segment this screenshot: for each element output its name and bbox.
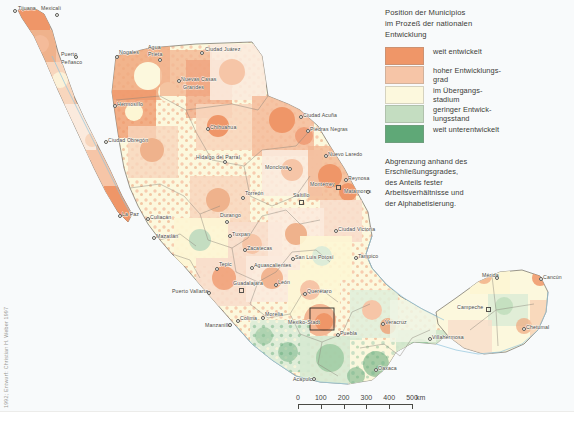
legend-item-label: geringer Entwick-lungsstand (433, 105, 491, 123)
legend-item-label: hoher Entwicklungs-grad (433, 66, 501, 84)
legend-color-swatch (385, 86, 424, 104)
source-credit: 1992; Entwurf: Christian H. Weber 1997 (3, 307, 9, 408)
legend-note-line: Abgrenzung anhand des (385, 157, 570, 168)
city-label: Villahermosa (432, 335, 464, 340)
city-label: Mazatlán (156, 234, 178, 239)
city-label: Mexicali (41, 6, 61, 11)
legend-note-line: Arbeitsverhältnisse und (385, 188, 570, 199)
city-label: San Luis Potosí (295, 255, 334, 260)
city-label: Zacatecas (247, 246, 272, 251)
city-label: Tuxpan (232, 232, 250, 237)
city-label: Puebla (340, 331, 357, 336)
city-label: Mexiko-Stadt (288, 320, 320, 325)
city-label: Oaxaca (378, 366, 397, 371)
scale-tick-label: 0 (296, 394, 300, 401)
bottom-strip (0, 412, 574, 429)
city-label: Culiacán (150, 215, 171, 220)
legend-title: Position der Municipiosim Prozeß der nat… (385, 8, 570, 40)
city-label: Chihuahua (210, 125, 236, 130)
legend-note-line: der Alphabetisierung. (385, 199, 570, 210)
city-label: Monterrey (310, 182, 335, 187)
scale-unit-label: km (416, 394, 425, 401)
city-label: Nuevo Laredo (328, 152, 362, 157)
legend-title-line: im Prozeß der nationalen (385, 19, 570, 30)
city-label: Tijuana (18, 6, 36, 11)
map-page: TijuanaMexicaliPuertoPeñascoNogalesAguaP… (0, 0, 574, 429)
legend-item[interactable]: im Übergangs-stadium (385, 86, 570, 104)
legend-color-swatch (385, 66, 424, 84)
city-label: Grandes (183, 85, 204, 90)
scale-tick-mark (344, 404, 345, 409)
city-label: Ciudad Victoria (338, 227, 375, 232)
city-marker-square (299, 200, 304, 205)
city-label: Monclova (265, 165, 288, 170)
legend-color-swatch (385, 105, 424, 123)
city-label: Peñasco (61, 60, 82, 65)
city-marker-square (336, 185, 341, 190)
legend-item[interactable]: weit entwickelt (385, 47, 570, 65)
city-label: Colima (240, 316, 257, 321)
city-label: Torreón (245, 191, 264, 196)
scale-tick-mark (389, 404, 390, 409)
legend-note: Abgrenzung anhand desErschließungsgrades… (385, 157, 570, 210)
city-label: Ciudad Acuña (303, 113, 337, 118)
scale-tick-mark (321, 404, 322, 409)
legend-item[interactable]: geringer Entwick-lungsstand (385, 105, 570, 123)
legend-title-line: Position der Municipios (385, 8, 570, 19)
city-label: Puerto Vallarta (172, 289, 208, 294)
city-label: Campeche (457, 305, 483, 310)
legend-item-label: weit entwickelt (433, 47, 482, 57)
scale-tick-label: 300 (361, 394, 373, 401)
map-bottom-divider (0, 411, 574, 412)
scale-tick-label: 100 (315, 394, 327, 401)
legend-item[interactable]: hoher Entwicklungs-grad (385, 66, 570, 84)
city-label: Guadalajara (233, 281, 263, 286)
scale-tick-mark (298, 404, 299, 409)
city-label: La Paz (122, 212, 139, 217)
city-label: Hermosillo (117, 102, 143, 107)
city-label: Prieta (148, 52, 162, 57)
city-label: Chetumal (526, 325, 549, 330)
city-marker-square (486, 307, 491, 312)
legend-color-swatch (385, 125, 424, 143)
legend-note-line: Erschließungsgrades, (385, 167, 570, 178)
city-label: Hidalgo del Parral (196, 155, 240, 160)
scale-tick-label: 200 (338, 394, 350, 401)
scale-tick-label: 400 (383, 394, 395, 401)
scale-bar: 0100200300400500 km (298, 394, 438, 411)
city-label: Veracruz (385, 320, 407, 325)
scale-ruler (298, 404, 438, 411)
city-label: Ciudad Juárez (205, 47, 240, 52)
legend-item[interactable]: weit unterentwickelt (385, 125, 570, 143)
city-label: Piedras Negras (310, 127, 348, 132)
city-label: Morelia (265, 312, 283, 317)
city-label: Querétaro (307, 289, 332, 294)
city-label: Cancún (543, 275, 562, 280)
scale-tick-mark (366, 404, 367, 409)
city-label: Tampico (358, 254, 378, 259)
city-label: Agua (148, 45, 161, 50)
legend: Position der Municipiosim Prozeß der nat… (385, 8, 570, 209)
legend-title-line: Entwicklung (385, 30, 570, 41)
legend-item-label: im Übergangs-stadium (433, 86, 483, 104)
legend-color-swatch (385, 47, 424, 65)
legend-note-line: des Anteils fester (385, 178, 570, 189)
city-label: Nogales (119, 50, 139, 55)
city-label: Aguascalientes (254, 263, 291, 268)
legend-item-label: weit unterentwickelt (433, 125, 499, 135)
city-label: Nuevas Casas (181, 77, 217, 82)
city-label: León (278, 280, 290, 285)
city-label: Saltillo (293, 193, 309, 198)
scale-tick-mark (412, 404, 413, 409)
legend-items: weit entwickelthoher Entwicklungs-gradim… (385, 47, 570, 142)
city-label: Tepic (219, 262, 232, 267)
city-label: Ciudad Obregón (108, 138, 148, 143)
city-label: Reynosa (348, 176, 370, 181)
city-marker-square (239, 288, 244, 293)
city-label: Durango (220, 213, 241, 218)
